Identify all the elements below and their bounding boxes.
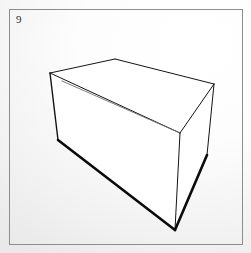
figure-plate: 9 bbox=[0, 0, 251, 253]
box-line-drawing bbox=[0, 0, 251, 253]
figure-number-label: 9 bbox=[16, 14, 22, 25]
